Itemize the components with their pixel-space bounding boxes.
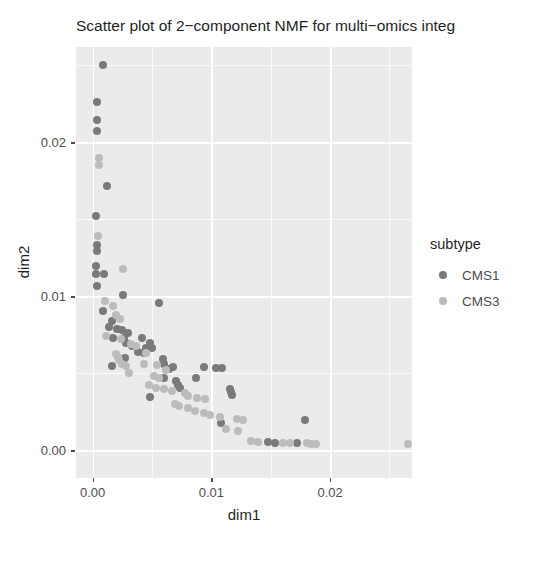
data-point-cms3 <box>168 387 176 395</box>
x-tick-label: 0.02 <box>317 485 342 500</box>
x-tick-mark <box>93 478 94 482</box>
legend-key-swatch <box>430 262 456 288</box>
y-tick-label: 0.00 <box>41 443 66 458</box>
legend-dot-icon <box>439 297 447 305</box>
data-point-cms1 <box>93 98 101 106</box>
data-point-cms3 <box>216 413 224 421</box>
gridline-major-vertical <box>330 47 332 478</box>
data-point-cms1 <box>200 363 208 371</box>
data-point-cms1 <box>138 334 146 342</box>
data-point-cms1 <box>293 439 301 447</box>
data-point-cms3 <box>132 342 140 350</box>
legend-item-label: CMS1 <box>462 268 500 283</box>
x-tick-mark <box>330 478 331 482</box>
data-point-cms1 <box>92 212 100 220</box>
data-point-cms1 <box>301 416 309 424</box>
data-point-cms3 <box>95 161 103 169</box>
data-point-cms1 <box>146 393 154 401</box>
data-point-cms3 <box>160 385 168 393</box>
gridline-major-horizontal <box>76 450 412 452</box>
data-point-cms3 <box>175 402 183 410</box>
data-point-cms3 <box>201 395 209 403</box>
data-point-cms1 <box>228 391 236 399</box>
x-tick-label: 0.01 <box>199 485 224 500</box>
data-point-cms3 <box>312 440 320 448</box>
data-point-cms1 <box>92 270 100 278</box>
data-point-cms3 <box>94 232 102 240</box>
data-point-cms3 <box>222 425 230 433</box>
data-point-cms1 <box>119 291 127 299</box>
data-point-cms1 <box>155 299 163 307</box>
legend-item-label: CMS3 <box>462 294 500 309</box>
data-point-cms1 <box>93 247 101 255</box>
x-tick-mark <box>211 478 212 482</box>
data-point-cms1 <box>93 282 101 290</box>
y-tick-mark <box>71 296 75 297</box>
gridline-minor-horizontal <box>76 65 412 66</box>
legend-item-cms3[interactable]: CMS3 <box>430 288 500 314</box>
y-axis-title: dim2 <box>15 246 32 279</box>
gridline-major-horizontal <box>76 142 412 144</box>
gridline-minor-horizontal <box>76 219 412 220</box>
data-point-cms3 <box>109 302 117 310</box>
data-point-cms3 <box>153 361 161 369</box>
data-point-cms3 <box>102 332 110 340</box>
x-tick-label: 0.00 <box>80 485 105 500</box>
data-point-cms3 <box>234 427 242 435</box>
data-point-cms1 <box>192 374 200 382</box>
data-point-cms1 <box>218 364 226 372</box>
legend-item-cms1[interactable]: CMS1 <box>430 262 500 288</box>
gridline-minor-vertical <box>389 47 390 478</box>
scatter-plot-figure: Scatter plot of 2−component NMF for mult… <box>0 0 554 566</box>
data-point-cms3 <box>193 394 201 402</box>
data-point-cms3 <box>119 265 127 273</box>
y-tick-label: 0.01 <box>41 289 66 304</box>
data-point-cms3 <box>101 297 109 305</box>
y-tick-mark <box>71 142 75 143</box>
data-point-cms1 <box>105 323 113 331</box>
y-tick-mark <box>71 450 75 451</box>
data-point-cms3 <box>116 315 124 323</box>
y-tick-label: 0.02 <box>41 135 66 150</box>
legend-key-swatch <box>430 288 456 314</box>
legend-title: subtype <box>430 236 500 252</box>
plot-panel <box>76 47 412 478</box>
data-point-cms1 <box>99 61 107 69</box>
data-point-cms3 <box>184 392 192 400</box>
data-point-cms3 <box>239 416 247 424</box>
data-point-cms1 <box>93 116 101 124</box>
data-point-cms3 <box>142 349 150 357</box>
plot-title: Scatter plot of 2−component NMF for mult… <box>76 16 554 36</box>
data-point-cms3 <box>404 440 412 448</box>
legend-entries: CMS1CMS3 <box>430 262 500 314</box>
gridline-minor-vertical <box>152 47 153 478</box>
data-point-cms3 <box>254 438 262 446</box>
data-point-cms3 <box>155 374 163 382</box>
data-point-cms3 <box>140 360 148 368</box>
data-point-cms3 <box>125 369 133 377</box>
legend: subtype CMS1CMS3 <box>430 236 500 314</box>
gridline-minor-vertical <box>271 47 272 478</box>
data-point-cms1 <box>100 270 108 278</box>
data-point-cms1 <box>108 362 116 370</box>
data-point-cms1 <box>93 127 101 135</box>
data-point-cms1 <box>103 182 111 190</box>
x-axis-title: dim1 <box>228 506 261 523</box>
data-point-cms1 <box>99 307 107 315</box>
data-point-cms3 <box>206 411 214 419</box>
data-point-cms3 <box>152 384 160 392</box>
legend-dot-icon <box>439 271 447 279</box>
